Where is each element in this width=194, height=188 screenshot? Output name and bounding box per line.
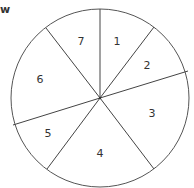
divider-lower-left [47,98,100,169]
divider-lower-right [100,98,154,169]
sector-label-7: 7 [78,35,85,48]
sector-label-3: 3 [149,107,156,120]
divider-left [13,98,100,125]
divider-right [100,71,188,98]
center-point [99,97,101,99]
sector-label-1: 1 [114,35,121,48]
sector-label-5: 5 [45,127,52,140]
sector-label-2: 2 [144,59,151,72]
divider-upper-left [46,28,100,98]
spinner-diagram: 1 2 3 4 5 6 7 [0,0,194,188]
sector-label-4: 4 [97,147,104,160]
sector-label-6: 6 [37,73,44,86]
